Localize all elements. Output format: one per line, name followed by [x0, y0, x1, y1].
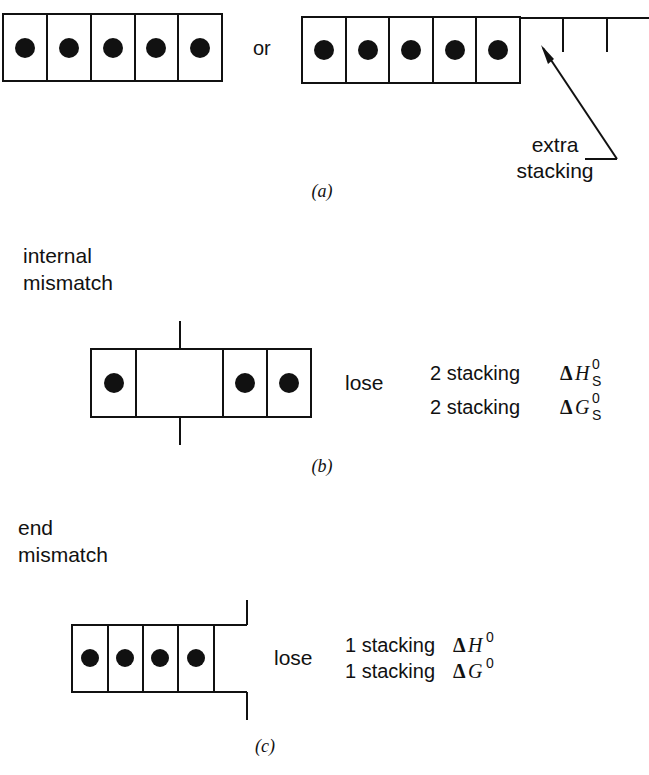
base-dot [190, 38, 210, 58]
panel-c-loss-1-symbol: H [467, 634, 484, 656]
panel-b-loss-1-symbol: H [574, 362, 591, 384]
panel-c-title-line2: mismatch [18, 543, 108, 566]
panel-b-loss-1-count: 2 stacking [430, 362, 520, 384]
panel-b-verb: lose [345, 371, 384, 394]
panel-b-loss-2-count: 2 stacking [430, 396, 520, 418]
base-dot [401, 40, 421, 60]
panel-b-loss-2-symbol: G [575, 396, 590, 418]
panel-c-title-line1: end [18, 516, 53, 539]
panel-c-verb: lose [274, 646, 313, 669]
panel-b-loss-1-sup: 0 [592, 356, 600, 372]
panel-b-loss-1-delta: Δ [560, 362, 573, 384]
panel-b-loss-1-sub: S [592, 373, 601, 389]
panel-a-label: (a) [312, 181, 333, 202]
base-dots [15, 38, 508, 667]
base-dot [116, 649, 134, 667]
panel-b-loss-2-sub: S [592, 407, 601, 423]
extra-stacking-line2: stacking [516, 159, 593, 182]
base-dot [104, 373, 124, 393]
base-dot [187, 649, 205, 667]
base-dot [81, 649, 99, 667]
base-dot [488, 40, 508, 60]
panel-c-loss-2-symbol: G [468, 660, 483, 682]
panel-c-loss-2-delta: Δ [453, 660, 466, 682]
base-dot [358, 40, 378, 60]
panel-b-loss-2-delta: Δ [560, 396, 573, 418]
base-dot [103, 38, 123, 58]
base-dot [279, 373, 299, 393]
panel-c-loss-2-sup: 0 [486, 655, 494, 671]
panel-c-loss-1-delta: Δ [453, 634, 466, 656]
panel-c-loss-1-sup: 0 [486, 629, 494, 645]
base-dot [15, 38, 35, 58]
panel-c-loss-2-count: 1 stacking [345, 660, 435, 682]
panel-b-label: (b) [312, 456, 333, 477]
base-dot [445, 40, 465, 60]
or-connector: or [253, 37, 271, 59]
base-dot [235, 373, 255, 393]
panel-c-label: (c) [255, 736, 275, 757]
panel-b-loss-2-sup: 0 [592, 390, 600, 406]
base-dot [146, 38, 166, 58]
panel-b-title-line2: mismatch [23, 271, 113, 294]
panel-c-loss-1-count: 1 stacking [345, 634, 435, 656]
stacking-diagram: or extra stacking (a) internal mismatch … [0, 0, 649, 775]
base-dot [314, 40, 334, 60]
extra-stacking-line1: extra [532, 133, 579, 156]
panel-b-title-line1: internal [23, 244, 92, 267]
panel-a-right-strand [302, 17, 649, 83]
base-dot [151, 649, 169, 667]
base-dot [59, 38, 79, 58]
